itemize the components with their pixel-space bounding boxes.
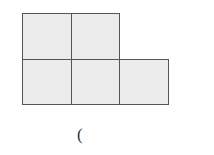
square-r1-c2 bbox=[119, 59, 169, 105]
square-r1-c0 bbox=[22, 59, 72, 105]
square-r0-c0 bbox=[22, 13, 72, 60]
caption-paren: ( bbox=[77, 126, 83, 143]
square-r0-c1 bbox=[71, 13, 120, 60]
square-r1-c1 bbox=[71, 59, 120, 105]
